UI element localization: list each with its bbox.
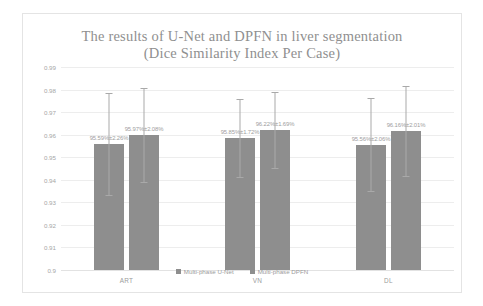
error-bar-cap-lower bbox=[106, 195, 113, 196]
x-axis-category-label: VN bbox=[192, 277, 323, 284]
error-bar-cap-upper bbox=[106, 93, 113, 94]
error-bar bbox=[406, 86, 407, 177]
error-bar bbox=[109, 93, 110, 195]
error-bar-cap-upper bbox=[272, 92, 279, 93]
error-bar-cap-lower bbox=[237, 177, 244, 178]
error-bar-cap-lower bbox=[368, 191, 375, 192]
bar-group: 95.56%±2.06%96.16%±2.01%DL bbox=[323, 67, 454, 270]
chart-title-line2: (Dice Similarity Index Per Case) bbox=[23, 45, 461, 62]
y-axis-tick-label: 0.96 bbox=[44, 131, 56, 138]
legend-label: Multi-phase U-Net bbox=[184, 268, 234, 275]
data-label: 96.22%±1.69% bbox=[256, 121, 295, 127]
data-label: 95.59%±2.26% bbox=[90, 135, 129, 141]
y-axis-tick-label: 0.97 bbox=[44, 109, 56, 116]
error-bar bbox=[240, 99, 241, 177]
bar-slot: 96.16%±2.01% bbox=[391, 67, 421, 270]
y-axis-tick-label: 0.92 bbox=[44, 221, 56, 228]
y-axis-tick-label: 0.95 bbox=[44, 154, 56, 161]
error-bar-cap-upper bbox=[141, 88, 148, 89]
legend-label: Multi-phase DPFN bbox=[258, 268, 309, 275]
legend-item[interactable]: Multi-phase U-Net bbox=[176, 268, 234, 275]
bar-group: 95.59%±2.26%95.97%±2.08%ART bbox=[61, 67, 192, 270]
data-label: 96.16%±2.01% bbox=[387, 122, 426, 128]
legend-swatch-icon bbox=[176, 269, 181, 274]
bar-slot: 95.97%±2.08% bbox=[129, 67, 159, 270]
chart-container: The results of U-Net and DPFN in liver s… bbox=[22, 13, 462, 293]
data-label: 95.85%±1.72% bbox=[221, 129, 260, 135]
error-bar-cap-upper bbox=[368, 98, 375, 99]
error-bar bbox=[144, 88, 145, 182]
error-bar-cap-lower bbox=[272, 168, 279, 169]
x-axis-category-label: DL bbox=[323, 277, 454, 284]
y-axis-tick-label: 0.91 bbox=[44, 244, 56, 251]
error-bar-cap-lower bbox=[141, 182, 148, 183]
y-axis-tick-label: 0.98 bbox=[44, 86, 56, 93]
bar-slot: 95.85%±1.72% bbox=[225, 67, 255, 270]
bar-slot: 96.22%±1.69% bbox=[260, 67, 290, 270]
legend-swatch-icon bbox=[250, 269, 255, 274]
x-axis-category-label: ART bbox=[61, 277, 192, 284]
data-label: 95.97%±2.08% bbox=[125, 126, 164, 132]
y-axis-tick-label: 0.94 bbox=[44, 176, 56, 183]
y-axis-tick-label: 0.99 bbox=[44, 64, 56, 71]
error-bar-cap-upper bbox=[403, 86, 410, 87]
legend-item[interactable]: Multi-phase DPFN bbox=[250, 268, 309, 275]
chart-title-line1: The results of U-Net and DPFN in liver s… bbox=[81, 28, 402, 44]
error-bar-cap-lower bbox=[403, 176, 410, 177]
error-bar bbox=[275, 92, 276, 168]
error-bar bbox=[371, 98, 372, 191]
bar-slot: 95.59%±2.26% bbox=[94, 67, 124, 270]
error-bar-cap-upper bbox=[237, 99, 244, 100]
chart-legend: Multi-phase U-NetMulti-phase DPFN bbox=[23, 268, 461, 275]
chart-title: The results of U-Net and DPFN in liver s… bbox=[23, 28, 461, 62]
y-axis-tick-label: 0.93 bbox=[44, 199, 56, 206]
data-label: 95.56%±2.06% bbox=[352, 136, 391, 142]
bar-group: 95.85%±1.72%96.22%±1.69%VN bbox=[192, 67, 323, 270]
bar-slot: 95.56%±2.06% bbox=[356, 67, 386, 270]
plot-area: 0.990.980.970.960.950.940.930.920.910.99… bbox=[61, 67, 454, 270]
